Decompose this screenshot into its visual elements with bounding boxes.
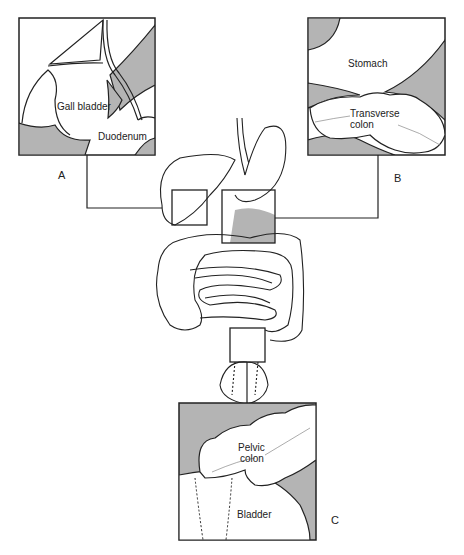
label-colon-b: colon xyxy=(350,119,374,130)
label-pelvic: Pelvic xyxy=(238,442,265,453)
panel-b: Stomach Transverse colon B xyxy=(308,18,445,184)
digestive-tract-diagram: Gall bladder Duodenum A Stomach Transver… xyxy=(0,0,464,555)
connector-lines xyxy=(87,155,378,403)
label-stomach: Stomach xyxy=(348,58,387,69)
panel-letter-a: A xyxy=(58,169,66,181)
label-duodenum: Duodenum xyxy=(98,131,147,142)
label-colon-c: colon xyxy=(240,453,264,464)
label-gall-bladder: Gall bladder xyxy=(57,101,112,112)
panel-letter-c: C xyxy=(331,514,339,526)
label-bladder: Bladder xyxy=(237,509,272,520)
panel-letter-b: B xyxy=(394,172,401,184)
label-transverse: Transverse xyxy=(350,108,400,119)
panel-c: Pelvic colon Bladder C xyxy=(179,403,339,540)
